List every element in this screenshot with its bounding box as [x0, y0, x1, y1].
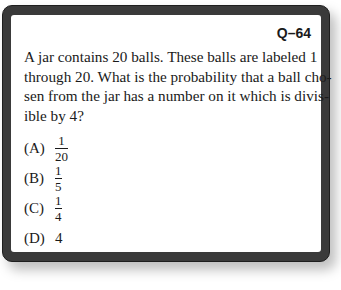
card-body: Q–64 A jar contains 20 balls. These ball…	[11, 15, 321, 252]
option-fraction: 1 4	[55, 194, 62, 223]
option-label: (B)	[24, 170, 55, 187]
question-text: A jar contains 20 balls. These balls are…	[24, 47, 319, 125]
question-line: through 20. What is the probability that…	[24, 67, 319, 87]
option-label: (C)	[24, 200, 55, 217]
question-card: Q–64 A jar contains 20 balls. These ball…	[2, 5, 330, 262]
option-value: 4	[55, 230, 63, 247]
question-line: A jar contains 20 balls. These balls are…	[24, 47, 319, 67]
option-fraction: 1 20	[55, 134, 68, 163]
option-a[interactable]: (A) 1 20	[24, 133, 68, 163]
option-fraction: 1 5	[55, 164, 62, 193]
option-label: (D)	[24, 230, 55, 247]
option-label: (A)	[24, 140, 55, 157]
question-line: ible by 4?	[24, 106, 319, 126]
option-b[interactable]: (B) 1 5	[24, 163, 62, 193]
option-d[interactable]: (D) 4	[24, 223, 63, 253]
question-line: sen from the jar has a number on it whic…	[24, 86, 319, 106]
question-number: Q–64	[277, 25, 311, 41]
option-c[interactable]: (C) 1 4	[24, 193, 62, 223]
